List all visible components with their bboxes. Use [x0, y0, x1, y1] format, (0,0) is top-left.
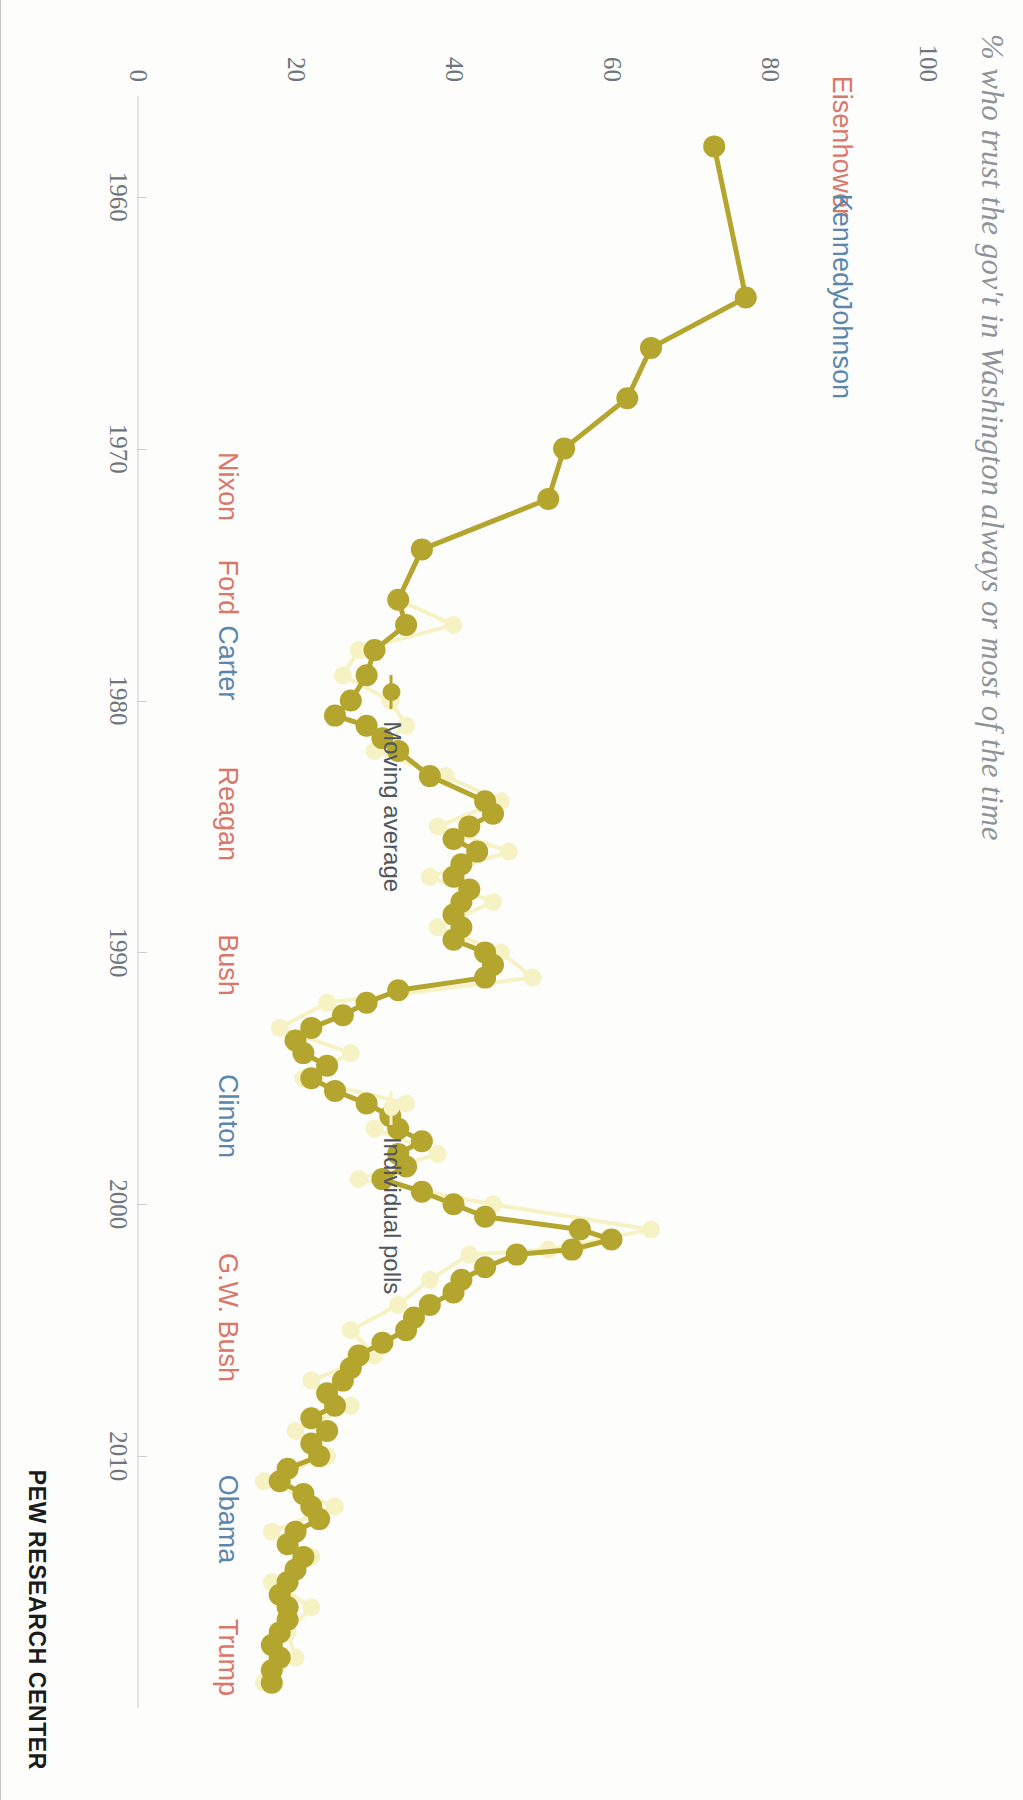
legend-item-individual-polls[interactable]: Individual polls — [377, 1091, 407, 1294]
x-axis-tick — [137, 701, 146, 702]
president-label-kennedy: Kennedy — [826, 194, 857, 301]
president-label-johnson: Johnson — [826, 297, 857, 399]
president-label-obama: Obama — [212, 1475, 243, 1564]
president-label-ford: Ford — [212, 559, 243, 615]
legend-swatch-icon — [382, 1091, 400, 1125]
rotated-figure: % who trust the gov't in Washington alwa… — [0, 0, 1023, 1800]
x-axis-tick — [137, 449, 146, 450]
x-axis-label: 1970 — [103, 424, 131, 474]
chart-image-frame: % who trust the gov't in Washington alwa… — [0, 0, 1023, 1800]
y-axis-label: 20 — [281, 34, 309, 82]
x-axis-label: 2010 — [103, 1431, 131, 1481]
chart-svg — [137, 96, 927, 1708]
legend-item-moving-average[interactable]: Moving average — [377, 675, 407, 892]
chart-title: % who trust the gov't in Washington alwa… — [973, 34, 1009, 841]
president-label-bush: Bush — [212, 934, 243, 996]
president-label-carter: Carter — [212, 625, 243, 700]
y-axis-label: 100 — [913, 34, 941, 82]
x-axis-label: 1960 — [103, 172, 131, 222]
x-axis-tick — [137, 1456, 146, 1457]
x-axis-label: 1990 — [103, 927, 131, 977]
y-axis-label: 60 — [597, 34, 625, 82]
y-axis-label: 80 — [755, 34, 783, 82]
president-label-g-w-bush: G.W. Bush — [212, 1253, 243, 1382]
x-axis-label: 2000 — [103, 1179, 131, 1229]
pew-research-center-brand: PEW RESEARCH CENTER — [22, 1470, 49, 1770]
chart-page: % who trust the gov't in Washington alwa… — [0, 0, 1023, 1800]
legend-label: Moving average — [378, 721, 405, 892]
x-axis-line — [137, 96, 138, 1708]
y-axis-label: 40 — [439, 34, 467, 82]
x-axis-tick — [137, 1204, 146, 1205]
plot-area: 196019701980199020002010020406080100 Eis… — [137, 96, 927, 1708]
president-label-trump: Trump — [212, 1619, 243, 1696]
legend-swatch-icon — [382, 675, 400, 709]
president-label-nixon: Nixon — [212, 452, 243, 521]
legend-label: Individual polls — [378, 1137, 405, 1294]
president-label-reagan: Reagan — [212, 767, 243, 862]
y-axis-label: 0 — [123, 34, 151, 82]
x-axis-tick — [137, 952, 146, 953]
x-axis-label: 1980 — [103, 676, 131, 726]
x-axis-tick — [137, 197, 146, 198]
president-label-clinton: Clinton — [212, 1074, 243, 1158]
